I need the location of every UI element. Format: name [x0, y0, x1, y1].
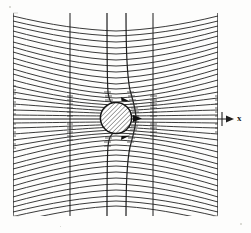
streamlines-upper — [13, 16, 218, 116]
scan-speck — [60, 226, 61, 227]
x-axis-arrowhead — [226, 116, 234, 123]
field-diagram-svg — [0, 0, 251, 233]
scan-speck — [9, 6, 11, 8]
streamlines-lower — [13, 122, 218, 217]
cylinder-group — [100, 102, 131, 133]
scan-speck — [240, 223, 242, 225]
x-axis-label: x — [237, 114, 242, 123]
figure-root: x — [0, 0, 251, 233]
